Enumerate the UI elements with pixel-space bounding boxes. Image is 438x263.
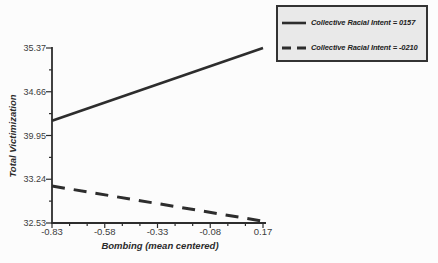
y-tick-label: 33.24	[0, 174, 46, 184]
x-axis-title: Bombing (mean centered)	[52, 240, 268, 251]
legend-label-solid: Collective Racial Intent = 0157	[311, 18, 415, 27]
legend-dashed-line-sample	[282, 45, 306, 51]
legend-entry-solid: Collective Racial Intent = 0157	[282, 10, 426, 35]
legend-label-dashed: Collective Racial Intent = -0210	[311, 43, 418, 52]
legend: Collective Racial Intent = 0157 Collecti…	[276, 5, 428, 62]
x-tick-label: -0.08	[188, 227, 232, 237]
x-tick-label: -0.58	[83, 227, 127, 237]
y-tick-label: 39.95	[0, 131, 46, 141]
legend-entry-dashed: Collective Racial Intent = -0210	[282, 35, 426, 60]
x-tick-label: 0.17	[241, 227, 285, 237]
x-tick-label: -0.33	[136, 227, 180, 237]
x-tick-label: -0.83	[30, 227, 74, 237]
y-tick-label: 34.66	[0, 87, 46, 97]
series-line-dashed	[52, 186, 263, 221]
axis-ticks	[46, 48, 263, 228]
chart-figure: Total Victimization Bombing (mean center…	[0, 0, 438, 263]
y-tick-label: 35.37	[0, 43, 46, 53]
series-line-solid	[52, 48, 263, 121]
legend-solid-line-sample	[282, 20, 306, 26]
